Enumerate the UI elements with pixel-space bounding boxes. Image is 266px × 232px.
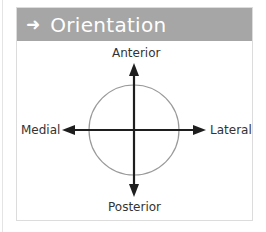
arrow-up-icon [129, 63, 139, 76]
label-posterior: Posterior [108, 201, 161, 213]
arrow-down-icon [129, 184, 139, 197]
label-medial: Medial [21, 124, 60, 136]
label-lateral: Lateral [210, 124, 252, 136]
orientation-diagram [0, 0, 266, 232]
arrow-right-icon [193, 125, 206, 135]
arrow-left-icon [62, 125, 75, 135]
label-anterior: Anterior [112, 47, 160, 59]
